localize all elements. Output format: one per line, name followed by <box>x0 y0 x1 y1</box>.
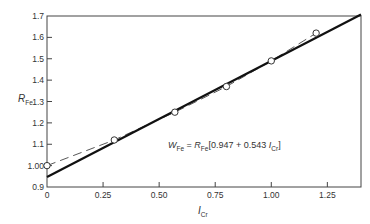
y-tick-label: 1.5 <box>32 54 44 64</box>
y-tick-label: 0.9 <box>32 182 44 192</box>
data-point-marker <box>268 58 274 64</box>
y-tick-label: 1.6 <box>32 32 44 42</box>
chart-container: 00.250.500.751.001.25 0.91.001.11.21.31.… <box>0 0 370 224</box>
data-point-marker <box>223 83 229 89</box>
data-point-marker <box>44 162 50 168</box>
y-tick-label: 1.7 <box>32 11 44 21</box>
x-tick-label: 0.75 <box>207 190 224 200</box>
data-point-marker <box>313 30 319 36</box>
x-axis-ticks: 00.250.500.751.001.25 <box>45 182 336 200</box>
y-tick-label: 1.2 <box>32 118 44 128</box>
x-tick-label: 1.25 <box>319 190 336 200</box>
x-axis-title: ICr <box>198 205 208 218</box>
x-tick-label: 0.50 <box>151 190 168 200</box>
data-point-marker <box>111 137 117 143</box>
plot-lines <box>47 15 361 177</box>
plot-frame <box>47 16 361 187</box>
equation-annotation: WFe = RFe[0.947 + 0.543 ICr] <box>168 140 281 152</box>
y-tick-label: 1.00 <box>27 161 44 171</box>
x-tick-label: 0 <box>45 190 50 200</box>
data-point-marker <box>172 109 178 115</box>
y-axis-title: RFe <box>18 93 33 106</box>
y-tick-label: 1.3 <box>32 97 44 107</box>
y-tick-label: 1.1 <box>32 139 44 149</box>
linear-fit-line <box>47 15 361 177</box>
x-tick-label: 1.00 <box>263 190 280 200</box>
chart-svg: 00.250.500.751.001.25 0.91.001.11.21.31.… <box>0 0 370 224</box>
y-tick-label: 1.4 <box>32 75 44 85</box>
x-tick-label: 0.25 <box>95 190 112 200</box>
